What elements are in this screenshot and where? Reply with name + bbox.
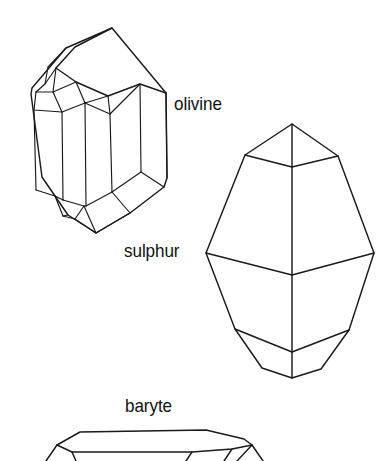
label-sulphur: sulphur [124,241,179,260]
crystal-drawings-svg [0,0,386,461]
olivine-crystal-drawing [31,28,167,233]
crystal-habit-figure: olivine sulphur baryte [0,0,386,461]
label-olivine: olivine [174,94,222,113]
sulphur-crystal-drawing [206,124,374,378]
label-baryte: baryte [125,396,172,415]
baryte-crystal-drawing [46,430,263,461]
